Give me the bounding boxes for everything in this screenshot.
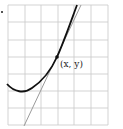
grid (8, 5, 108, 125)
corner-mark (1, 11, 3, 13)
tangent-line-diagram: (x, y) (0, 0, 123, 129)
diagram-canvas: (x, y) (0, 0, 123, 129)
tangent-point (55, 55, 59, 59)
point-label: (x, y) (60, 59, 83, 69)
curve (7, 5, 77, 91)
